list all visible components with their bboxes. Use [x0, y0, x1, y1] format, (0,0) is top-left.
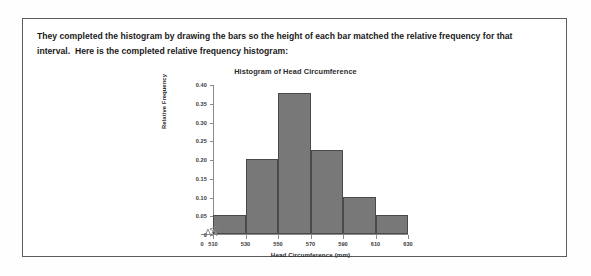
- x-axis-title: Head Circumference (mm): [213, 251, 408, 258]
- y-tick-label-0.05: 0.05: [196, 213, 207, 219]
- x-tick-570: [311, 235, 312, 239]
- histogram-figure: Histogram of Head Circumference Relative…: [163, 67, 428, 247]
- instruction-paragraph: They completed the histogram by drawing …: [37, 29, 549, 59]
- scanned-page: They completed the histogram by drawing …: [0, 0, 591, 276]
- document-content-box: They completed the histogram by drawing …: [22, 18, 567, 257]
- y-tick-0.25: [210, 141, 214, 142]
- paragraph-line-1: They completed the histogram by drawing …: [37, 29, 549, 44]
- y-tick-0.40: [210, 85, 214, 86]
- y-tick-0.30: [210, 123, 214, 124]
- x-tick-530: [246, 235, 247, 239]
- y-tick-0.10: [210, 198, 214, 199]
- y-tick-label-0.25: 0.25: [196, 138, 207, 144]
- histogram-bar: [246, 159, 279, 234]
- x-tick-label-590: 590: [338, 241, 348, 247]
- x-tick-550: [278, 235, 279, 239]
- chart-title: Histogram of Head Circumference: [163, 67, 428, 76]
- y-tick-0.35: [210, 104, 214, 105]
- x-origin-label: 0: [200, 241, 203, 247]
- x-tick-label-530: 530: [241, 241, 251, 247]
- y-tick-label-0.30: 0.30: [196, 120, 207, 126]
- x-tick-label-610: 610: [371, 241, 381, 247]
- y-axis-title: Relative Frequency: [161, 74, 167, 129]
- y-tick-0.20: [210, 160, 214, 161]
- y-tick-label-0.20: 0.20: [196, 157, 207, 163]
- histogram-bar: [376, 215, 409, 234]
- x-tick-630: [408, 235, 409, 239]
- y-tick-0.15: [210, 179, 214, 180]
- plot-area: 00.050.100.150.200.250.300.350.40 510530…: [213, 85, 408, 235]
- paragraph-line-2: interval. Here is the completed relative…: [37, 44, 549, 59]
- histogram-bar: [311, 150, 344, 234]
- x-tick-label-630: 630: [403, 241, 413, 247]
- y-axis-break-icon: [209, 225, 219, 237]
- histogram-bar: [278, 93, 311, 234]
- y-tick-label-0.40: 0.40: [196, 82, 207, 88]
- x-tick-610: [376, 235, 377, 239]
- y-tick-label-0.35: 0.35: [196, 101, 207, 107]
- x-tick-label-570: 570: [306, 241, 316, 247]
- x-tick-590: [343, 235, 344, 239]
- x-axis-line: [201, 234, 408, 235]
- y-tick-label-0.10: 0.10: [196, 195, 207, 201]
- x-tick-label-510: 510: [208, 241, 218, 247]
- histogram-bar: [343, 197, 376, 235]
- x-tick-label-550: 550: [273, 241, 283, 247]
- y-tick-label-0.15: 0.15: [196, 176, 207, 182]
